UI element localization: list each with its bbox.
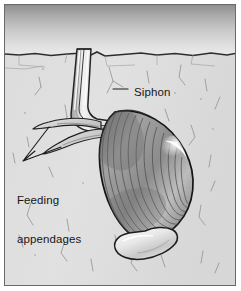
label-feeding-appendages: Feeding appendages (17, 168, 81, 272)
label-siphon: Siphon (134, 86, 170, 99)
illustration-panel: Siphon Feeding appendages (4, 4, 236, 286)
illustration-figure: Siphon Feeding appendages (0, 0, 241, 291)
water-column (5, 5, 235, 57)
label-feeding-line2: appendages (17, 233, 81, 246)
label-feeding-line1: Feeding (17, 194, 81, 207)
